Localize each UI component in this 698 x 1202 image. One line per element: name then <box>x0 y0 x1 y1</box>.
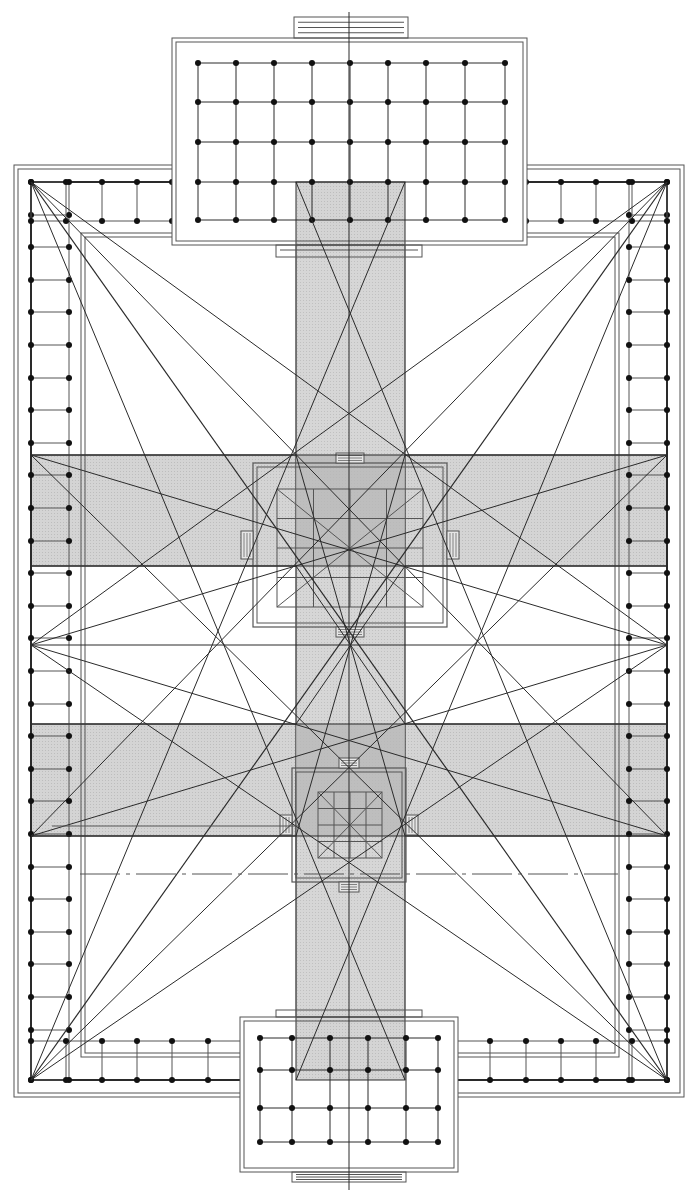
column-dot <box>664 570 670 576</box>
column-dot <box>271 139 277 145</box>
column-dot <box>664 994 670 1000</box>
column-dot <box>626 603 632 609</box>
column-dot <box>435 1105 441 1111</box>
column-dot <box>487 1038 493 1044</box>
column-dot <box>435 1139 441 1145</box>
column-dot <box>629 218 635 224</box>
column-dot <box>28 407 34 413</box>
column-dot <box>626 440 632 446</box>
column-dot <box>462 99 468 105</box>
column-dot <box>66 733 72 739</box>
column-dot <box>327 1139 333 1145</box>
column-dot <box>195 60 201 66</box>
column-dot <box>99 1038 105 1044</box>
column-dot <box>309 139 315 145</box>
column-dot <box>626 961 632 967</box>
column-dot <box>271 99 277 105</box>
column-dot <box>523 1038 529 1044</box>
column-dot <box>629 179 635 185</box>
column-dot <box>66 212 72 218</box>
column-dot <box>347 99 353 105</box>
column-dot <box>626 472 632 478</box>
column-dot <box>257 1067 263 1073</box>
column-dot <box>28 218 34 224</box>
column-dot <box>423 139 429 145</box>
column-dot <box>664 407 670 413</box>
column-dot <box>664 961 670 967</box>
column-dot <box>28 603 34 609</box>
column-dot <box>28 635 34 641</box>
column-dot <box>233 139 239 145</box>
column-dot <box>257 1139 263 1145</box>
column-dot <box>309 60 315 66</box>
column-dot <box>257 1035 263 1041</box>
column-dot <box>593 1077 599 1083</box>
column-dot <box>593 218 599 224</box>
column-dot <box>664 472 670 478</box>
column-dot <box>66 407 72 413</box>
column-dot <box>66 701 72 707</box>
column-dot <box>28 733 34 739</box>
column-dot <box>347 179 353 185</box>
column-dot <box>66 538 72 544</box>
column-dot <box>28 961 34 967</box>
column-dot <box>365 1067 371 1073</box>
column-dot <box>195 217 201 223</box>
column-dot <box>99 218 105 224</box>
column-dot <box>205 1077 211 1083</box>
column-dot <box>629 1077 635 1083</box>
column-dot <box>28 701 34 707</box>
column-dot <box>385 60 391 66</box>
column-dot <box>502 99 508 105</box>
column-dot <box>626 929 632 935</box>
column-dot <box>347 60 353 66</box>
column-dot <box>66 864 72 870</box>
column-dot <box>257 1105 263 1111</box>
column-dot <box>435 1067 441 1073</box>
column-dot <box>205 1038 211 1044</box>
column-dot <box>502 139 508 145</box>
column-dot <box>626 407 632 413</box>
column-dot <box>502 60 508 66</box>
column-dot <box>664 538 670 544</box>
column-dot <box>28 864 34 870</box>
column-dot <box>327 1105 333 1111</box>
column-dot <box>664 668 670 674</box>
column-dot <box>462 217 468 223</box>
column-dot <box>66 505 72 511</box>
column-dot <box>28 472 34 478</box>
column-dot <box>28 440 34 446</box>
column-dot <box>487 1077 493 1083</box>
column-dot <box>66 961 72 967</box>
column-dot <box>289 1105 295 1111</box>
column-dot <box>347 217 353 223</box>
column-dot <box>462 60 468 66</box>
column-dot <box>664 440 670 446</box>
column-dot <box>664 603 670 609</box>
column-dot <box>664 309 670 315</box>
column-dot <box>271 217 277 223</box>
column-dot <box>462 179 468 185</box>
column-dot <box>289 1139 295 1145</box>
column-dot <box>195 99 201 105</box>
column-dot <box>664 244 670 250</box>
column-dot <box>169 1038 175 1044</box>
column-dot <box>626 309 632 315</box>
column-dot <box>28 538 34 544</box>
column-dot <box>423 99 429 105</box>
column-dot <box>385 139 391 145</box>
column-dot <box>66 472 72 478</box>
column-dot <box>523 1077 529 1083</box>
column-dot <box>63 179 69 185</box>
column-dot <box>664 929 670 935</box>
column-dot <box>134 179 140 185</box>
column-dot <box>233 217 239 223</box>
column-dot <box>347 139 353 145</box>
column-dot <box>28 1038 34 1044</box>
column-dot <box>327 1035 333 1041</box>
column-dot <box>626 766 632 772</box>
column-dot <box>233 99 239 105</box>
column-dot <box>309 99 315 105</box>
column-dot <box>626 342 632 348</box>
column-dot <box>664 864 670 870</box>
